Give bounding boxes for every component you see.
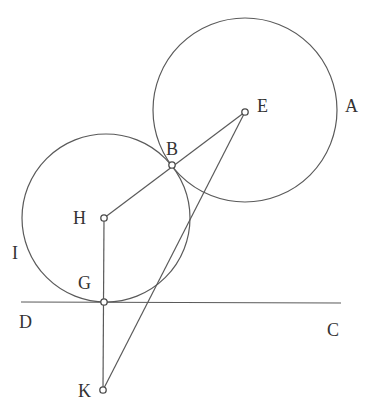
label-B: B <box>166 139 178 159</box>
label-A: A <box>345 96 358 116</box>
label-C: C <box>327 320 339 340</box>
label-K: K <box>78 381 91 401</box>
point-B <box>169 162 175 168</box>
geometry-diagram: E A B H I G D C K <box>0 0 367 415</box>
label-H: H <box>73 208 86 228</box>
label-D: D <box>19 312 32 332</box>
line-DC <box>21 302 341 303</box>
label-E: E <box>257 96 268 116</box>
label-G: G <box>78 273 91 293</box>
point-E <box>242 109 248 115</box>
point-G <box>101 299 107 305</box>
point-K <box>100 387 106 393</box>
label-I: I <box>12 243 18 263</box>
point-H <box>101 215 107 221</box>
